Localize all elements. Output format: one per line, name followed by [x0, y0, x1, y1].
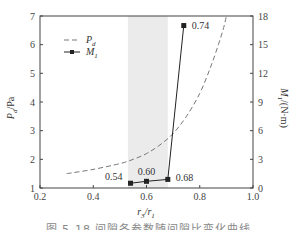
y-left-tick-label: 6: [30, 39, 35, 50]
x-tick-label: 0.4: [87, 191, 100, 202]
m1-point-label: 0.74: [192, 20, 210, 31]
y-right-tick-label: 18: [258, 11, 268, 22]
m1-marker: [181, 23, 186, 28]
left-y-axis-ticks: 1234567: [30, 11, 43, 194]
y-left-tick-label: 5: [30, 68, 35, 79]
legend: Pd M1: [64, 34, 98, 60]
left-y-axis-label: Pd/Pa: [5, 96, 19, 120]
x-axis-label: r3/r1: [137, 206, 155, 220]
dual-axis-chart: 0.540.600.680.74 0.20.40.60.81.0 1234567…: [0, 0, 297, 230]
y-left-tick-label: 1: [30, 183, 35, 194]
right-y-axis-label: M1/(N·m): [276, 87, 290, 128]
m1-marker: [128, 181, 133, 186]
x-tick-label: 0.8: [194, 191, 207, 202]
y-right-tick-label: 12: [258, 68, 268, 79]
x-tick-label: 0.2: [34, 191, 47, 202]
y-left-tick-label: 3: [30, 125, 35, 136]
y-right-tick-label: 9: [258, 97, 263, 108]
y-right-tick-label: 15: [258, 39, 268, 50]
y-right-tick-label: 0: [258, 183, 263, 194]
y-right-tick-label: 6: [258, 125, 263, 136]
m1-marker: [165, 177, 170, 182]
y-left-tick-label: 7: [30, 11, 35, 22]
legend-m1-marker: [70, 50, 74, 54]
shaded-region: [128, 16, 168, 188]
y-left-tick-label: 4: [30, 97, 35, 108]
x-tick-label: 0.6: [140, 191, 153, 202]
m1-marker: [144, 179, 149, 184]
legend-m1-label: M1: [85, 46, 98, 60]
y-left-tick-label: 2: [30, 154, 35, 165]
y-right-tick-label: 3: [258, 154, 263, 165]
m1-point-label: 0.54: [105, 171, 123, 182]
figure-caption: 图 5-18 间隙各参数随间隙比变化曲线: [0, 220, 297, 230]
m1-point-label: 0.68: [176, 172, 194, 183]
m1-point-label: 0.60: [138, 166, 156, 177]
